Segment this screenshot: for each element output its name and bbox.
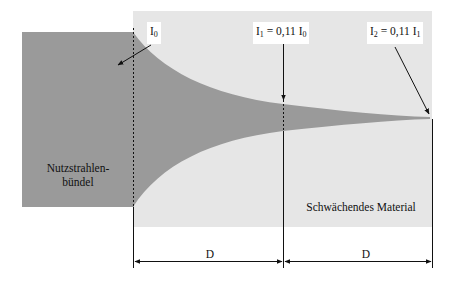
dimension-label-left: D: [200, 247, 220, 261]
useful-beam-label: Nutzstrahlen- bündel: [26, 161, 130, 189]
i1-label: I1 = 0,11 I0: [253, 22, 309, 44]
i0-label: I0: [147, 22, 161, 44]
absorbing-material-label: Schwächendes Material: [300, 200, 422, 214]
dimension-label-right: D: [356, 247, 376, 261]
i2-label: I2 = 0,11 I1: [367, 22, 423, 44]
